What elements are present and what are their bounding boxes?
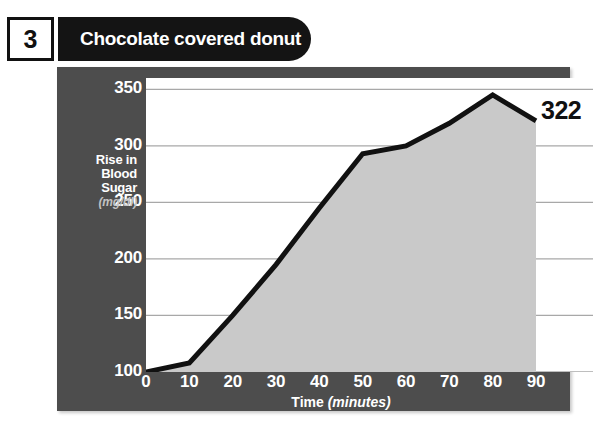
x-tick-label: 60 xyxy=(386,372,426,392)
end-value-label: 322 xyxy=(541,96,581,125)
plot-area xyxy=(146,78,593,372)
y-tick-label: 150 xyxy=(64,304,142,324)
x-tick-label: 40 xyxy=(299,372,339,392)
y-axis-title-line-2: Blood xyxy=(101,166,137,181)
x-tick-label: 20 xyxy=(213,372,253,392)
y-axis-title-line-3: Sugar xyxy=(101,180,137,195)
area-fill xyxy=(146,95,536,372)
x-tick-label: 90 xyxy=(516,372,556,392)
x-tick-label: 30 xyxy=(256,372,296,392)
page-title: Chocolate covered donut xyxy=(80,28,301,50)
title-pill: Chocolate covered donut xyxy=(58,17,311,61)
blood-sugar-series xyxy=(146,78,593,372)
figure-number-box: 3 xyxy=(7,17,54,61)
x-axis-tick-labels: 0102030405060708090 xyxy=(57,372,570,394)
x-tick-label: 0 xyxy=(126,372,166,392)
figure-number: 3 xyxy=(24,27,38,52)
y-axis-title: Rise in Blood Sugar (mg/dl) xyxy=(57,153,137,209)
x-axis-units: (minutes) xyxy=(328,394,391,410)
x-axis-title: Time (minutes) xyxy=(146,394,536,410)
y-axis-units: (mg/dl) xyxy=(57,196,137,209)
y-axis-tick-labels: 100150200250300350 xyxy=(57,67,142,411)
x-tick-label: 50 xyxy=(343,372,383,392)
x-axis-title-text: Time xyxy=(291,394,323,410)
x-tick-label: 10 xyxy=(169,372,209,392)
x-tick-label: 80 xyxy=(473,372,513,392)
y-tick-label: 200 xyxy=(64,248,142,268)
y-axis-title-line-1: Rise in xyxy=(96,152,137,167)
chart-panel: 100150200250300350 Rise in Blood Sugar (… xyxy=(57,67,570,411)
x-tick-label: 70 xyxy=(429,372,469,392)
y-tick-label: 350 xyxy=(64,78,142,98)
chart-header: 3 Chocolate covered donut xyxy=(0,0,595,67)
